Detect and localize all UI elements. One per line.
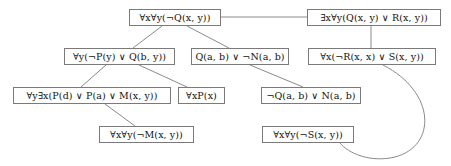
clause-formula: ¬Q(a, b) ∨ N(a, b) — [263, 91, 358, 101]
clause-formula: ∃x∀y(Q(x, y) ∨ R(x, y)) — [317, 13, 431, 23]
clause-formula: ∀y(¬P(y) ∨ Q(b, y)) — [70, 52, 169, 62]
clause-node[interactable]: ¬Q(a, b) ∨ N(a, b) — [261, 87, 361, 104]
clause-node[interactable]: ∀x∀y(¬Q(x, y)) — [129, 9, 221, 26]
edge-n3-n6 — [81, 65, 106, 87]
clause-formula: Q(a, b) ∨ ¬N(a, b) — [192, 52, 287, 62]
edge-n1-n4 — [187, 26, 229, 48]
clause-formula: ∀y∃x(P(d) ∨ P(a) ∨ M(x, y)) — [24, 91, 161, 101]
edge-n6-n9 — [105, 104, 135, 126]
clause-formula: ∀x(¬R(x, x) ∨ S(x, y)) — [317, 52, 427, 62]
proof-tree-diagram: ∀x∀y(¬Q(x, y))∃x∀y(Q(x, y) ∨ R(x, y))∀y(… — [0, 0, 451, 166]
clause-node[interactable]: ∀x(¬R(x, x) ∨ S(x, y)) — [308, 48, 436, 65]
clause-formula: ∀x∀y(¬Q(x, y)) — [137, 13, 214, 23]
clause-node[interactable]: ∀xP(x) — [178, 87, 225, 104]
edge-n5-n10 — [340, 65, 425, 159]
clause-formula: ∀x∀y(¬S(x, y)) — [270, 130, 346, 140]
edge-n1-n3 — [133, 26, 162, 48]
edge-n4-n8 — [250, 65, 303, 87]
clause-node[interactable]: ∃x∀y(Q(x, y) ∨ R(x, y)) — [307, 9, 441, 26]
clause-node[interactable]: ∀x∀y(¬S(x, y)) — [262, 126, 354, 143]
clause-node[interactable]: ∀y∃x(P(d) ∨ P(a) ∨ M(x, y)) — [13, 87, 171, 104]
edge-n3-n7 — [139, 65, 187, 87]
clause-node[interactable]: ∀y(¬P(y) ∨ Q(b, y)) — [64, 48, 175, 65]
clause-node[interactable]: Q(a, b) ∨ ¬N(a, b) — [191, 48, 289, 65]
clause-formula: ∀xP(x) — [183, 91, 220, 101]
clause-formula: ∀x∀y(¬M(x, y)) — [107, 130, 186, 140]
clause-node[interactable]: ∀x∀y(¬M(x, y)) — [99, 126, 194, 143]
